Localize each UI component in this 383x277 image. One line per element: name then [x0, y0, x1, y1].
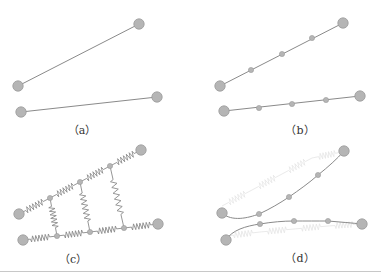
chain-spring: [50, 182, 80, 198]
endpoint-node: [355, 91, 365, 101]
control-node: [286, 194, 291, 199]
endpoint-node: [18, 235, 28, 245]
control-node: [323, 97, 328, 102]
bottom-divider: [0, 271, 381, 272]
endpoint-node: [357, 219, 367, 229]
control-node: [279, 51, 284, 56]
label-panel-b: （b）: [285, 121, 314, 137]
control-node: [256, 211, 261, 216]
chain-spring: [57, 230, 90, 238]
control-node: [256, 105, 261, 110]
cross-spring: [49, 198, 58, 236]
endpoint-node: [338, 18, 348, 28]
endpoint-node: [217, 208, 227, 218]
cross-spring: [110, 166, 124, 228]
diagram-canvas: [0, 0, 383, 277]
ghost-spring: [282, 158, 312, 174]
endpoint-node: [339, 146, 349, 156]
control-node: [248, 67, 253, 72]
control-node: [291, 218, 296, 223]
label-panel-d: （d）: [285, 249, 314, 265]
endpoint-node: [221, 235, 231, 245]
control-node: [107, 163, 112, 168]
endpoint-node: [16, 107, 26, 117]
control-node: [289, 101, 294, 106]
ghost-spring: [252, 174, 282, 190]
panel-b-discretized-lines: [215, 18, 365, 116]
control-node: [54, 233, 59, 238]
edge: [21, 97, 157, 112]
cross-spring: [79, 182, 90, 232]
control-node: [47, 195, 52, 200]
ghost-spring: [294, 224, 328, 232]
ghost-spring: [222, 190, 252, 206]
endpoint-node: [134, 19, 144, 29]
control-node: [315, 172, 320, 177]
endpoint-node: [13, 81, 23, 91]
endpoint-node: [215, 81, 225, 91]
endpoint-node: [14, 209, 24, 219]
control-node: [121, 225, 126, 230]
control-node: [257, 221, 262, 226]
ghost-spring: [260, 227, 294, 235]
control-node: [77, 179, 82, 184]
control-node: [325, 218, 330, 223]
chain-spring: [80, 166, 110, 182]
panel-a-straight-lines: [13, 19, 162, 117]
endpoint-node: [152, 92, 162, 102]
chain-spring: [90, 226, 124, 234]
panel-d-curved-bundles: [217, 146, 367, 245]
endpoint-node: [153, 219, 163, 229]
edge: [18, 24, 139, 86]
label-panel-a: （a）: [68, 121, 97, 137]
panel-c-spring-network: [14, 145, 163, 245]
control-node: [87, 229, 92, 234]
control-node: [309, 35, 314, 40]
endpoint-node: [219, 106, 229, 116]
endpoint-node: [136, 145, 146, 155]
bundled-curve: [222, 151, 344, 218]
label-panel-c: （c）: [59, 250, 87, 266]
